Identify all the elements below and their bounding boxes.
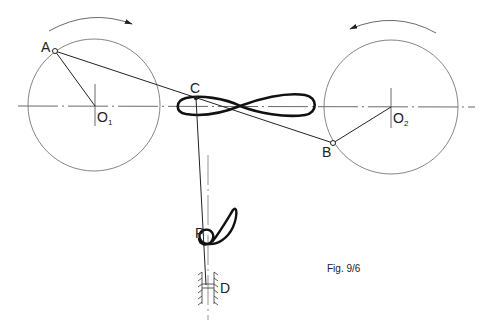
crank-o2-b [333, 107, 391, 143]
label-c: C [190, 80, 200, 96]
crank-o1-a [55, 51, 95, 106]
joint-c [194, 96, 198, 100]
label-p: P [195, 225, 204, 241]
label-o2: O2 [393, 110, 409, 128]
figure-eight-coupler-curve [178, 94, 315, 116]
linkage-drawing: A C B P D O1 O2 Fig. 9/6 [0, 0, 485, 333]
joint-a [53, 49, 58, 54]
rotation-arrow-1-icon [49, 17, 132, 31]
rotation-arrow-2-icon [350, 20, 436, 33]
horizontal-centerline [18, 106, 475, 107]
label-d: D [220, 280, 230, 296]
figure-caption: Fig. 9/6 [327, 263, 361, 274]
label-o1: O1 [97, 109, 113, 127]
label-b: B [322, 144, 331, 160]
mechanism-diagram: A C B P D O1 O2 Fig. 9/6 [0, 0, 485, 333]
connecting-rod-cd [196, 98, 206, 285]
coupler-curve-p [199, 209, 236, 245]
label-a: A [41, 39, 51, 55]
